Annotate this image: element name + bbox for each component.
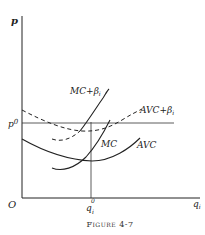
mc-plus-beta-lower-dashed <box>52 131 80 140</box>
quantity-level-sup: 0 <box>91 197 95 204</box>
quantity-level-sub: i <box>92 208 94 215</box>
avc-plus-beta-label: AVC+βi <box>139 105 174 116</box>
avc-label: AVC <box>136 140 157 150</box>
price-level-label: p0 <box>8 118 19 129</box>
mc-plus-beta-label: MC+βi <box>69 86 101 97</box>
cost-curves-diagram: p p0 MC+βi AVC+βi MC AVC O q 0 i qi Figu… <box>0 0 205 235</box>
y-axis-label: p <box>11 15 18 26</box>
mc-label: MC <box>100 139 117 149</box>
figure-caption: Figure 4-7 <box>86 220 133 229</box>
origin-label: O <box>8 199 16 210</box>
x-axis-label: qi <box>193 199 201 210</box>
avc-curve <box>22 138 140 161</box>
